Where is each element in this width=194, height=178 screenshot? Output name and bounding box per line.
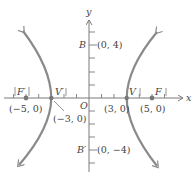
- hyperbola-diagram: y x O F′ (−5, 0) V′ (−3, 0) V (3, 0) F (…: [0, 0, 194, 178]
- label-bracket-marks: [15, 87, 166, 96]
- vertex-v-prime-point: [49, 96, 53, 100]
- focus-f-point: [150, 96, 155, 101]
- v-prime-coord: (−3, 0): [53, 113, 87, 124]
- x-axis-label: x: [186, 92, 192, 103]
- origin-label: O: [80, 100, 88, 111]
- v-prime-label: V′: [55, 86, 65, 97]
- f-label: F: [154, 86, 162, 97]
- f-prime-label: F′: [16, 86, 27, 97]
- f-prime-coord: (−5, 0): [9, 103, 43, 114]
- b-coord: (0, 4): [97, 39, 123, 50]
- v-prime-leader-line: [54, 101, 64, 111]
- v-label: V: [129, 86, 137, 97]
- b-label: B: [78, 39, 86, 50]
- b-prime-label: B′: [76, 144, 87, 155]
- y-axis-label: y: [85, 6, 92, 17]
- b-prime-coord: (0, −4): [97, 144, 131, 155]
- f-coord: (5, 0): [140, 103, 166, 114]
- v-coord: (3, 0): [104, 103, 130, 114]
